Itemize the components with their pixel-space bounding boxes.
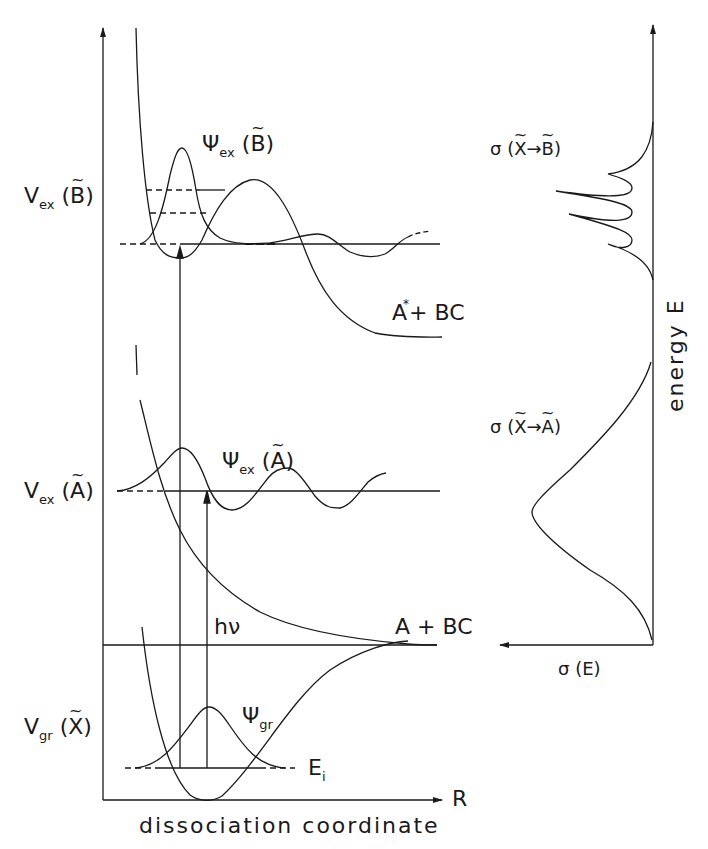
initial-energy-label: Ei	[308, 757, 326, 779]
r-axis-symbol: R	[452, 788, 467, 810]
A-state-potential-curve	[140, 400, 437, 645]
x-axis-label: dissociation coordinate	[139, 815, 440, 837]
asymptote-A-BC: A + BC	[395, 616, 473, 638]
spectrum-label-X-to-A: σ (X→A)	[490, 418, 561, 436]
wavefunction-label-A: Ψex (A)	[222, 450, 294, 472]
potential-label-A: Vex (A)	[24, 480, 94, 502]
potential-label-B: Vex (B)	[24, 185, 94, 207]
potential-label-X: Vgr (X)	[24, 716, 92, 738]
spectrum-X-to-B	[556, 122, 653, 280]
ground-potential-curve	[142, 627, 408, 800]
wavefunction-label-ground: Ψgr	[242, 705, 273, 727]
wavefunction-label-B: Ψex (B)	[202, 133, 274, 155]
cross-section-axis-label: σ (E)	[558, 660, 601, 678]
spectrum-label-X-to-B: σ (X→B)	[490, 140, 561, 158]
energy-axis-label: energy E	[665, 298, 687, 412]
reflection-principle-diagram	[0, 0, 708, 849]
asymptote-A-star-BC: A*+ BC	[392, 302, 465, 324]
photon-energy-label: hν	[214, 616, 240, 638]
B-state-potential-curve	[136, 28, 442, 337]
B-state-wavefunction	[140, 148, 408, 257]
